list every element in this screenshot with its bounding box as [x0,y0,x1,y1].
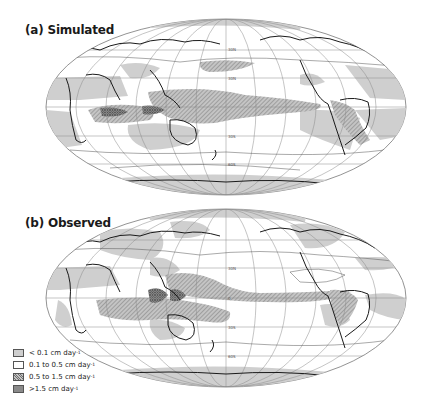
swatch-light-gray [13,349,24,357]
legend-label: 0.5 to 1.5 cm day [29,371,91,383]
legend-label: 0.1 to 0.5 cm day [29,359,91,371]
lat-label-30s-b: 30S [228,325,236,330]
legend-item-0-5-to-1-5: 0.5 to 1.5 cm day-1 [13,371,95,383]
lat-label-30n-b: 30N [228,266,236,271]
lat-label-30n-a2: 30N [228,76,236,81]
lat-label-60s-b: 60S [228,354,236,359]
swatch-hatch [13,373,24,381]
legend-item-gt-1-5: >1.5 cm day-1 [13,383,95,395]
legend-item-lt-0-1: < 0.1 cm day-1 [13,347,95,359]
lat-label-30n-a: 30N [228,47,236,52]
swatch-white [13,361,24,369]
map-simulated: 30N 30N 30S 60S [0,0,427,200]
legend-item-0-1-to-0-5: 0.1 to 0.5 cm day-1 [13,359,95,371]
swatch-crosshatch [13,385,24,393]
legend: < 0.1 cm day-1 0.1 to 0.5 cm day-1 0.5 t… [13,347,95,395]
lat-label-30s-a: 30S [228,134,236,139]
legend-label: >1.5 cm day [29,383,74,395]
lat-label-60s-a: 60S [228,162,236,167]
legend-label: < 0.1 cm day [29,347,76,359]
